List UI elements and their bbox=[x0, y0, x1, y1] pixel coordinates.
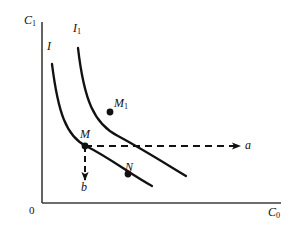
point-m1-label: M1 bbox=[114, 97, 128, 109]
curve-i1-label: I1 bbox=[73, 22, 81, 34]
point-m1-marker bbox=[107, 109, 114, 116]
point-m-label: M bbox=[80, 128, 90, 140]
x-axis-label-sub: 0 bbox=[276, 211, 280, 220]
x-axis-label: C0 bbox=[268, 206, 280, 218]
point-n-label-text: N bbox=[125, 160, 133, 174]
curve-i1-label-sub: 1 bbox=[77, 27, 81, 36]
point-m-marker bbox=[82, 143, 89, 150]
arrow-b-label: b bbox=[81, 181, 87, 193]
origin-label: 0 bbox=[29, 205, 35, 216]
indifference-curve-figure: C1 C0 0 I I1 M1 M N a b bbox=[0, 0, 303, 232]
y-axis-label: C1 bbox=[24, 14, 36, 26]
y-axis-label-text: C bbox=[24, 13, 32, 27]
figure-canvas bbox=[0, 0, 303, 232]
arrow-a-label: a bbox=[245, 139, 251, 151]
point-m1-label-text: M bbox=[114, 96, 124, 110]
indifference-curve-i1 bbox=[78, 48, 186, 176]
y-axis-label-sub: 1 bbox=[32, 19, 36, 28]
x-axis-label-text: C bbox=[268, 205, 276, 219]
curve-i-label-text: I bbox=[47, 39, 51, 53]
point-n-label: N bbox=[125, 161, 133, 173]
curve-i-label: I bbox=[47, 40, 51, 52]
point-m1-label-sub: 1 bbox=[124, 102, 128, 111]
point-m-label-text: M bbox=[80, 127, 90, 141]
